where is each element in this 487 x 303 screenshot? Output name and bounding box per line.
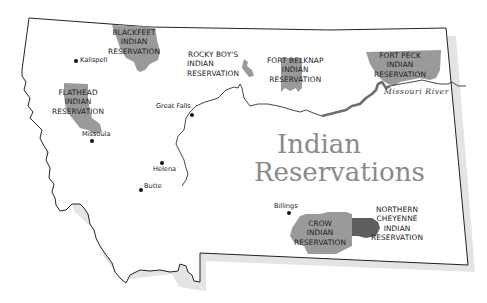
label-line: RESERVATION xyxy=(187,69,239,78)
great-falls-label: Great Falls xyxy=(156,102,191,110)
missoula-dot-icon xyxy=(90,139,94,143)
blackfeet-label: BLACKFEET INDIAN RESERVATION xyxy=(108,28,160,56)
map-title-line2: Reservations xyxy=(254,158,394,186)
label-line: ROCKY BOY'S xyxy=(187,50,239,59)
label-line: BLACKFEET xyxy=(108,28,160,37)
billings-dot-icon xyxy=(287,211,291,215)
map-title: Indian Reservations xyxy=(244,130,394,186)
northern-cheyenne-label: NORTHERN CHEYENNE INDIAN RESERVATION xyxy=(371,205,423,243)
label-line: RESERVATION xyxy=(371,233,423,242)
missoula-label: Missoula xyxy=(82,130,110,138)
label-line: FLATHEAD xyxy=(52,88,104,97)
label-line: NORTHERN xyxy=(371,205,423,214)
label-line: INDIAN xyxy=(187,59,239,68)
label-line: RESERVATION xyxy=(294,238,346,247)
kalispell-dot-icon xyxy=(74,59,78,63)
label-line: RESERVATION xyxy=(267,75,323,84)
flathead-label: FLATHEAD INDIAN RESERVATION xyxy=(52,88,104,116)
crow-label: CROW INDIAN RESERVATION xyxy=(294,219,346,247)
great-falls-dot-icon xyxy=(190,113,194,117)
label-line: INDIAN xyxy=(374,60,426,69)
butte-label: Butte xyxy=(144,182,162,190)
label-line: INDIAN xyxy=(294,228,346,237)
butte-dot-icon xyxy=(139,188,143,192)
label-line: RESERVATION xyxy=(108,47,160,56)
label-line: CHEYENNE xyxy=(371,214,423,223)
montana-map: BLACKFEET INDIAN RESERVATION ROCKY BOY'S… xyxy=(0,0,487,303)
rocky-boys-label: ROCKY BOY'S INDIAN RESERVATION xyxy=(187,50,239,78)
map-title-line1: Indian xyxy=(244,130,394,158)
kalispell-label: Kalispell xyxy=(80,56,107,64)
missouri-river-label: Missouri River xyxy=(384,87,449,96)
label-line: INDIAN xyxy=(52,97,104,106)
label-line: RESERVATION xyxy=(52,107,104,116)
helena-label: Helena xyxy=(153,165,176,173)
label-line: CROW xyxy=(294,219,346,228)
label-line: FORT BELKNAP xyxy=(267,56,323,65)
label-line: RESERVATION xyxy=(374,70,426,79)
fort-peck-label: FORT PECK INDIAN RESERVATION xyxy=(374,51,426,79)
label-line: INDIAN xyxy=(267,65,323,74)
label-line: INDIAN xyxy=(371,224,423,233)
fort-belknap-label: FORT BELKNAP INDIAN RESERVATION xyxy=(267,56,323,84)
label-line: FORT PECK xyxy=(374,51,426,60)
billings-label: Billings xyxy=(274,202,298,210)
label-line: INDIAN xyxy=(108,37,160,46)
